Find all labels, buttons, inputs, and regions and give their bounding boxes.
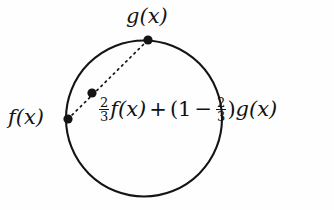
coefficient-numerator: 2 <box>99 96 109 109</box>
coefficient-fraction: 2 3 <box>99 96 109 124</box>
interpolation-formula: 2 3 f(x) + ( 1 − 2 3 ) g(x) <box>98 96 277 124</box>
formula-one: 1 <box>178 99 191 120</box>
g-point-label: g(x) <box>126 6 168 27</box>
weight-numerator: 2 <box>216 96 226 109</box>
open-paren: ( <box>170 99 178 120</box>
weight-fraction: 2 3 <box>216 96 226 124</box>
formula-second-term: g(x) <box>236 99 278 120</box>
formula-first-term: f(x) <box>110 99 146 120</box>
close-paren: ) <box>227 99 235 120</box>
f-point-dot <box>63 114 72 123</box>
math-figure-circle-interpolation: g(x) f(x) 2 3 f(x) + ( 1 − 2 3 ) g(x) <box>0 0 334 210</box>
weight-denominator: 3 <box>216 109 226 123</box>
plus-operator: + <box>146 99 170 120</box>
interpolated-point-dot <box>87 88 96 97</box>
g-point-dot <box>143 35 152 44</box>
f-point-label: f(x) <box>8 107 44 128</box>
coefficient-denominator: 3 <box>99 109 109 123</box>
minus-operator: − <box>191 99 215 120</box>
